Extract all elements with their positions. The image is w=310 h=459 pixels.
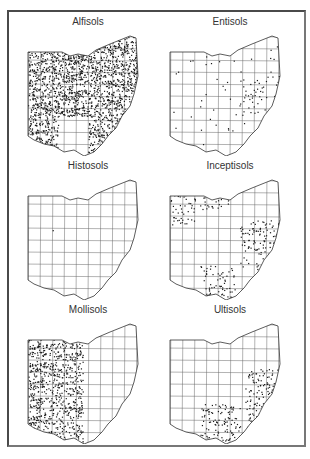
ohio-map	[18, 160, 158, 300]
map-panel-mollisols: Mollisols	[18, 304, 158, 444]
map-panel-inceptisols: Inceptisols	[160, 160, 300, 300]
ohio-map	[18, 304, 158, 444]
ohio-map	[160, 160, 300, 300]
map-panel-alfisols: Alfisols	[18, 16, 158, 156]
map-panel-histosols: Histosols	[18, 160, 158, 300]
ohio-map	[160, 16, 300, 156]
map-panel-ultisols: Ultisols	[160, 304, 300, 444]
ohio-map	[18, 16, 158, 156]
map-panel-entisols: Entisols	[160, 16, 300, 156]
ohio-map	[160, 304, 300, 444]
